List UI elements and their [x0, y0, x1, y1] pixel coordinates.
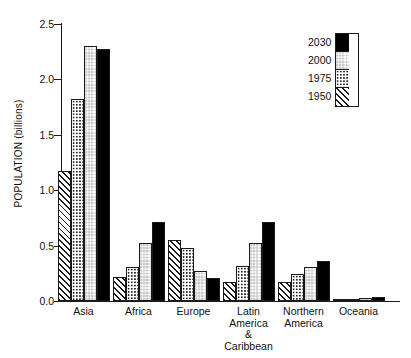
x-axis-label: Africa: [111, 306, 166, 318]
bar-africa-2030: [152, 222, 165, 301]
x-axis-label-line: America: [276, 318, 331, 330]
bar-europe-2000: [194, 271, 207, 301]
y-tick-label: 2.0: [26, 74, 54, 84]
bar-europe-2030: [207, 278, 220, 301]
legend-swatch-2000: [336, 52, 349, 70]
legend-label-2030: 2030: [308, 33, 331, 51]
bar-northern-america-1975: [291, 274, 304, 301]
legend-label-1950: 1950: [308, 87, 331, 105]
bar-northern-america-2030: [317, 261, 330, 301]
bar-asia-2000: [84, 46, 97, 301]
bar-asia-1975: [71, 99, 84, 301]
x-axis-label-line: Northern: [276, 306, 331, 318]
x-axis-line: [55, 301, 400, 302]
legend-labels: 2030200019751950: [308, 33, 331, 105]
legend-label-1975: 1975: [308, 69, 331, 87]
bar-northern-america-1950: [278, 282, 291, 301]
y-tick-label: 1.0: [26, 185, 54, 195]
bar-latin-america-caribbean-1950: [223, 282, 236, 301]
bar-group: [168, 24, 220, 301]
x-axis-label: NorthernAmerica: [276, 306, 331, 329]
bar-latin-america-caribbean-2000: [249, 243, 262, 301]
y-tick-mark: [54, 301, 61, 302]
bar-africa-1950: [113, 277, 126, 301]
bar-oceania-2030: [372, 297, 385, 301]
y-tick-label: 1.5: [26, 130, 54, 140]
bar-northern-america-2000: [304, 267, 317, 301]
legend-swatch-column: [335, 33, 359, 107]
y-tick-label: 0.0: [26, 296, 54, 306]
bar-africa-1975: [126, 267, 139, 301]
bar-africa-2000: [139, 243, 152, 301]
x-axis-label-line: Africa: [111, 306, 166, 318]
bar-asia-1950: [58, 171, 71, 301]
x-axis-label: Europe: [166, 306, 221, 318]
bar-europe-1950: [168, 240, 181, 301]
x-axis-label: Oceania: [331, 306, 386, 318]
legend-swatch-1950: [336, 88, 349, 106]
bar-oceania-1950: [333, 299, 346, 301]
bar-group: [58, 24, 110, 301]
legend: 2030200019751950: [308, 33, 359, 107]
legend-swatch-1975: [336, 70, 349, 88]
x-axis-label-line: Europe: [166, 306, 221, 318]
x-axis-label-line: Oceania: [331, 306, 386, 318]
x-axis-label-line: Latin America: [221, 306, 276, 329]
x-axis-label: Latin America& Caribbean: [221, 306, 276, 352]
x-axis-label-line: Asia: [56, 306, 111, 318]
y-tick-label: 2.5: [26, 19, 54, 29]
bar-group: [113, 24, 165, 301]
bar-europe-1975: [181, 248, 194, 301]
legend-label-2000: 2000: [308, 51, 331, 69]
bar-latin-america-caribbean-1975: [236, 266, 249, 301]
footer-artifact: [0, 347, 411, 355]
population-bar-chart: POPULATION (billions) 0.00.51.01.52.02.5…: [0, 0, 411, 358]
legend-swatch-2030: [336, 34, 349, 52]
y-tick-label: 0.5: [26, 241, 54, 251]
bar-group: [223, 24, 275, 301]
bar-oceania-2000: [359, 298, 372, 301]
bar-asia-2030: [97, 49, 110, 301]
bar-oceania-1975: [346, 299, 359, 301]
x-axis-label: Asia: [56, 306, 111, 318]
bar-latin-america-caribbean-2030: [262, 222, 275, 301]
